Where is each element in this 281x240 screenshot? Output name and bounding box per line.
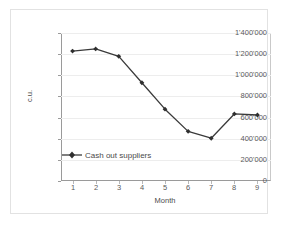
xtick-label-1: 1: [63, 183, 83, 192]
xtick-label-8: 8: [224, 183, 244, 192]
ytick-mark-800000: [58, 96, 61, 97]
ytick-mark-400000: [58, 139, 61, 140]
ytick-label-400000: 400'000: [222, 135, 267, 143]
ytick-label-1400000: 1'400'000: [222, 29, 267, 37]
ytick-label-1000000: 1'000'000: [222, 71, 267, 79]
xtick-label-7: 7: [201, 183, 221, 192]
ytick-mark-600000: [58, 118, 61, 119]
ytick-label-200000: 200'000: [222, 156, 267, 164]
ytick-mark-1200000: [58, 54, 61, 55]
ytick-mark-1400000: [58, 33, 61, 34]
xtick-label-5: 5: [155, 183, 175, 192]
ytick-mark-0: [58, 181, 61, 182]
xtick-label-3: 3: [109, 183, 129, 192]
ytick-label-600000: 600'000: [222, 114, 267, 122]
y-axis-title: c.u.: [25, 90, 34, 102]
ytick-mark-1000000: [58, 75, 61, 76]
legend-marker-icon: [61, 150, 83, 160]
ytick-label-1200000: 1'200'000: [222, 50, 267, 58]
x-axis-title: Month: [60, 196, 270, 205]
ytick-mark-200000: [58, 160, 61, 161]
legend-label-cash-out-suppliers: Cash out suppliers: [85, 151, 151, 160]
xtick-label-2: 2: [86, 183, 106, 192]
xtick-label-9: 9: [247, 183, 267, 192]
xtick-label-4: 4: [132, 183, 152, 192]
ytick-label-800000: 800'000: [222, 92, 267, 100]
chart-legend: Cash out suppliers: [61, 150, 151, 160]
xtick-label-6: 6: [178, 183, 198, 192]
